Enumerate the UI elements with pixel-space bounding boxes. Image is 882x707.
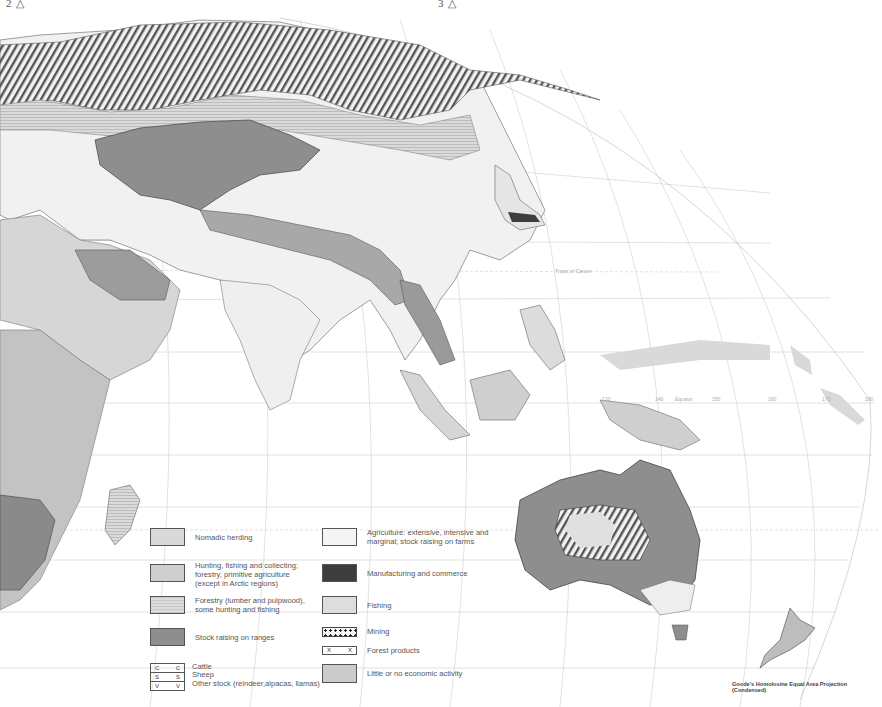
stock-raising-southern-africa [0, 495, 55, 590]
legend-label: Mining [367, 627, 389, 636]
landmass-borneo [470, 370, 530, 420]
legend-item-mining: Mining [322, 627, 389, 637]
swatch-forestry [150, 596, 185, 614]
grid-label-equator: Equator [675, 396, 693, 402]
landmass-philippines [520, 305, 565, 370]
landmass-new-guinea [600, 400, 700, 450]
legend-item-stock: Stock raising on ranges [150, 628, 274, 646]
swatch-agriculture [322, 528, 357, 546]
legend-label: Forest products [367, 646, 420, 655]
legend-label: Little or no economic activity [367, 669, 462, 678]
legend-label: Nomadic herding [195, 533, 252, 542]
page-marker-right: 3 △ [438, 0, 457, 10]
swatch-nomadic-herding [150, 528, 185, 546]
grid-label-150: 150 [712, 396, 721, 402]
legend-label: Manufacturing and commerce [367, 569, 467, 578]
cattle-symbol: CC [151, 664, 184, 672]
legend-label: Fishing [367, 601, 391, 610]
legend-label-other-stock: Other stock (reindeer,alpacas, llamas) [192, 680, 320, 688]
swatch-forest-products: XX [322, 646, 357, 655]
projection-caption: Goode's Homolosine Equal Area Projection… [732, 681, 882, 693]
legend-label: Agriculture: extensive, intensive and ma… [367, 528, 497, 546]
stock-symbol-box: CC SS VV [150, 663, 185, 691]
legend-label: Forestry (lumber and pulpwood), some hun… [195, 596, 315, 614]
tasmania [672, 625, 688, 640]
legend-item-manufacturing: Manufacturing and commerce [322, 564, 467, 582]
legend-item-little-activity: Little or no economic activity [322, 664, 462, 683]
map-legend: Nomadic herding Hunting, fishing and col… [150, 528, 495, 693]
page-marker-left: 2 △ [6, 0, 25, 10]
madagascar [105, 485, 140, 545]
sheep-symbol: SS [151, 672, 184, 681]
legend-item-forestry: Forestry (lumber and pulpwood), some hun… [150, 596, 315, 614]
pacific-islands-c [790, 345, 812, 375]
pacific-islands-b [820, 388, 865, 425]
landmass-sumatra-java [400, 370, 470, 440]
other-stock-symbol: VV [151, 681, 184, 690]
legend-label: Stock raising on ranges [195, 633, 274, 642]
swatch-fishing [322, 596, 357, 614]
legend-item-stock-symbols: CC SS VV Cattle Sheep Other stock (reind… [150, 663, 320, 691]
swatch-mining [322, 627, 357, 637]
legend-item-hunting: Hunting, fishing and collecting; forestr… [150, 561, 315, 588]
swatch-hunting-fishing [150, 564, 185, 582]
legend-item-forest-products: XX Forest products [322, 646, 420, 655]
grid-label-180: 180 [865, 396, 874, 402]
stock-symbol-labels: Cattle Sheep Other stock (reindeer,alpac… [192, 663, 320, 688]
grid-label-140: 140 [655, 396, 664, 402]
swatch-manufacturing [322, 564, 357, 582]
grid-label-160: 160 [768, 396, 777, 402]
grid-label-120: 120 [602, 396, 611, 402]
legend-item-nomadic: Nomadic herding [150, 528, 252, 546]
swatch-little-activity [322, 664, 357, 683]
legend-item-agriculture: Agriculture: extensive, intensive and ma… [322, 528, 497, 546]
grid-label-170: 170 [822, 396, 831, 402]
legend-label: Hunting, fishing and collecting; forestr… [195, 561, 315, 588]
legend-item-fishing: Fishing [322, 596, 391, 614]
swatch-stock-raising [150, 628, 185, 646]
grid-label-tropic-cancer: Tropic of Cancer [555, 268, 592, 274]
landmass-new-zealand [760, 608, 815, 668]
pacific-islands-a [600, 340, 770, 370]
